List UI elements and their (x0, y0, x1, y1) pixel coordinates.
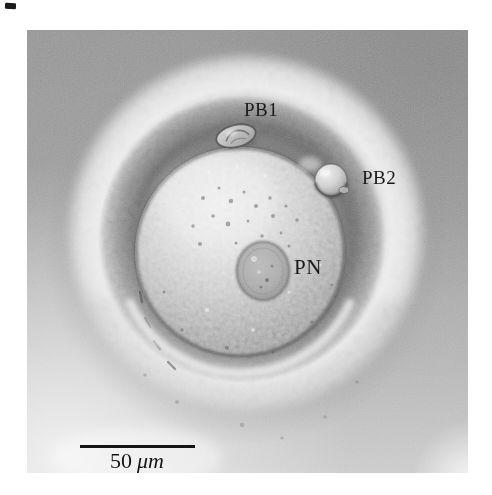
page: { "page": { "background": "#ffffff" }, "… (0, 0, 492, 495)
label-pb1: PB1 (244, 100, 278, 119)
scale-bar-label: 50μm (75, 449, 199, 473)
film-grain (27, 30, 468, 473)
label-pn: PN (294, 257, 322, 278)
micrograph-canvas (27, 30, 468, 473)
scale-bar-value: 50 (110, 448, 132, 473)
oocyte-micrograph: PB1 PB2 PN 50μm (27, 30, 468, 473)
scale-bar-unit: μm (137, 448, 164, 473)
scan-artifact-mark (5, 3, 16, 9)
label-pb2: PB2 (362, 168, 396, 187)
